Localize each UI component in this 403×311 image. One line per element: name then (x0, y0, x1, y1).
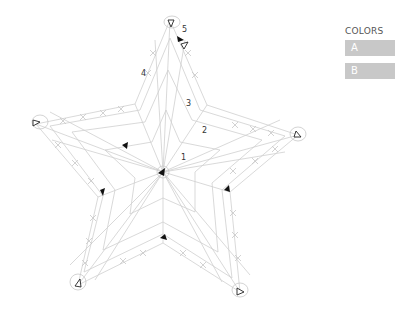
crochet-star-diagram: 1 2 3 4 5 (0, 0, 403, 311)
color-legend: COLORS A B (345, 26, 400, 86)
end-marker-icon (237, 288, 244, 295)
round-label: 5 (182, 25, 187, 34)
legend-title: COLORS (345, 26, 400, 36)
start-arrow-icon (122, 142, 128, 149)
end-marker-icon (294, 131, 301, 137)
start-arrows (100, 36, 230, 240)
start-arrow-icon (177, 36, 184, 42)
end-markers (33, 20, 301, 295)
round-label: 1 (181, 153, 186, 162)
swatch-b-label: B (351, 65, 358, 76)
round-label: 4 (141, 69, 146, 78)
end-marker-icon (75, 279, 81, 287)
round-label: 3 (186, 99, 191, 108)
stitch-lines (36, 20, 298, 292)
swatch-b: B (345, 63, 395, 79)
swatch-a-label: A (351, 42, 358, 53)
round-label: 2 (202, 126, 207, 135)
swatch-a: A (345, 40, 395, 56)
